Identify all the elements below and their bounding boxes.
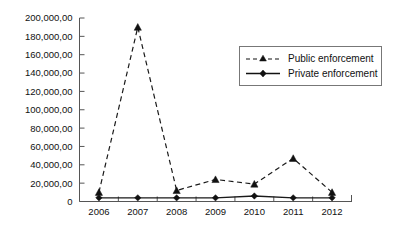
- line-chart: 020,000,0040,000,0060,000,0080,000,00100…: [0, 0, 393, 230]
- data-point-private: [212, 195, 218, 201]
- y-tick-label: 80,000,00: [30, 123, 72, 134]
- x-tick-label: 2006: [88, 206, 109, 217]
- x-tick-label: 2010: [244, 206, 265, 217]
- y-tick-label: 60,000,00: [30, 141, 72, 152]
- y-tick-label: 0: [67, 196, 72, 207]
- x-tick-label: 2008: [166, 206, 187, 217]
- data-point-private: [251, 193, 257, 199]
- data-point-public: [251, 180, 258, 187]
- y-tick-label: 180,000,00: [25, 31, 73, 42]
- data-point-public: [134, 24, 141, 31]
- chart-legend: Public enforcement Private enforcement: [240, 47, 382, 86]
- x-tick-label: 2011: [283, 206, 303, 217]
- x-tick-label: 2012: [322, 206, 343, 217]
- series-markers-private-enforcement: [96, 193, 336, 201]
- y-axis-ticks: [80, 18, 85, 202]
- y-tick-label: 200,000,00: [25, 12, 73, 23]
- legend-label-public: Public enforcement: [288, 53, 374, 64]
- data-point-private: [135, 195, 141, 201]
- y-tick-label: 160,000,00: [25, 49, 73, 60]
- x-tick-label: 2007: [127, 206, 148, 217]
- chart-container: 020,000,0040,000,0060,000,0080,000,00100…: [0, 0, 393, 230]
- data-point-private: [173, 195, 179, 201]
- data-point-public: [212, 176, 219, 183]
- y-tick-label: 100,000,00: [25, 104, 73, 115]
- y-tick-label: 120,000,00: [25, 86, 73, 97]
- legend-label-private: Private enforcement: [288, 68, 378, 79]
- y-tick-label: 140,000,00: [25, 67, 73, 78]
- y-tick-label: 20,000,00: [30, 178, 72, 189]
- y-tick-label: 40,000,00: [30, 159, 72, 170]
- x-axis-tick-labels: 2006200720082009201020112012: [88, 206, 342, 217]
- x-tick-label: 2009: [205, 206, 226, 217]
- data-point-public: [290, 155, 297, 162]
- data-point-private: [290, 195, 296, 201]
- y-axis-tick-labels: 020,000,0040,000,0060,000,0080,000,00100…: [25, 12, 73, 207]
